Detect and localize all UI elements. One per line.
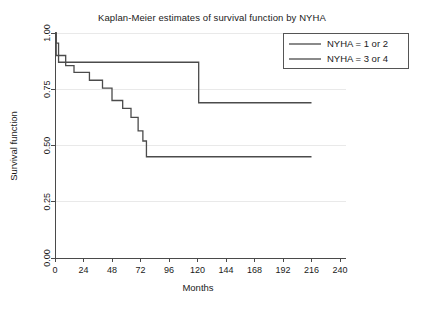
y-tick-label: 0.75 (42, 80, 52, 98)
kaplan-meier-chart: Kaplan-Meier estimates of survival funct… (0, 0, 424, 310)
legend-label-0[interactable]: NYHA = 1 or 2 (327, 38, 388, 49)
y-tick-label: 0.50 (42, 137, 52, 155)
plot-area: 024487296120144168192216240 0.000.250.50… (0, 0, 424, 310)
survival-curve-series-0 (55, 33, 312, 103)
x-tick-label: 96 (164, 265, 174, 275)
y-axis-ticks: 0.000.250.500.751.00 (42, 24, 55, 267)
x-tick-label: 48 (107, 265, 117, 275)
x-tick-label: 72 (135, 265, 145, 275)
y-axis-title: Survival function (8, 111, 19, 181)
x-tick-label: 240 (332, 265, 347, 275)
y-tick-label: 0.00 (42, 249, 52, 267)
legend-label-1[interactable]: NYHA = 3 or 4 (327, 53, 388, 64)
x-tick-label: 192 (275, 265, 290, 275)
y-tick-label: 1.00 (42, 24, 52, 42)
x-axis-title: Months (182, 282, 213, 293)
x-tick-label: 168 (247, 265, 262, 275)
y-tick-label: 0.25 (42, 193, 52, 211)
x-tick-label: 24 (78, 265, 88, 275)
x-tick-label: 216 (304, 265, 319, 275)
x-tick-label: 144 (218, 265, 233, 275)
survival-curves (55, 33, 312, 157)
x-axis-ticks: 024487296120144168192216240 (52, 258, 347, 275)
x-tick-label: 0 (52, 265, 57, 275)
survival-curve-series-1 (55, 33, 312, 157)
x-tick-label: 120 (190, 265, 205, 275)
chart-legend[interactable]: NYHA = 1 or 2NYHA = 3 or 4 (283, 33, 408, 68)
